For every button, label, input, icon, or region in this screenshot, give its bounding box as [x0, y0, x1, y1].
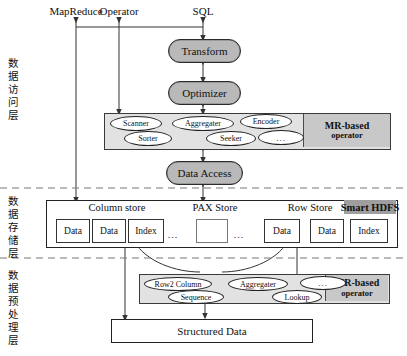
operator-row2column[interactable]: Row2 Column: [144, 277, 212, 291]
diagram-canvas: 数据访问层 数据存储层 数据预处理层 MapReduce Operator SQ…: [0, 0, 407, 356]
layer-label-preprocess: 数据预处理层: [6, 270, 17, 348]
operator-sorter[interactable]: Sorter: [124, 131, 172, 146]
column-store-more: ...: [166, 230, 180, 240]
operator-sequence[interactable]: Sequence: [168, 290, 224, 304]
layer-label-access: 数据访问层: [6, 58, 17, 123]
mr-tag-sub-pre: operator: [341, 289, 373, 299]
node-transform[interactable]: Transform: [168, 39, 241, 63]
operator-aggregater[interactable]: Aggregater: [172, 116, 234, 131]
storage-section-smart-hdfs: Smart HDFS: [344, 200, 396, 214]
storage-section-column: Column store: [62, 203, 172, 214]
pax-store-more: ...: [232, 230, 246, 240]
layer-label-storage: 数据存储层: [6, 196, 17, 261]
store-item-index-2[interactable]: Index: [350, 219, 388, 243]
storage-section-pax: PAX Store: [175, 203, 255, 214]
node-optimizer[interactable]: Optimizer: [168, 81, 241, 105]
entry-operator: Operator: [86, 6, 152, 17]
operator-more-access[interactable]: ...: [258, 130, 304, 145]
operator-lookup[interactable]: Lookup: [272, 290, 322, 304]
node-data-access[interactable]: Data Access: [166, 161, 243, 185]
operator-encoder[interactable]: Encoder: [240, 114, 292, 129]
entry-sql: SQL: [180, 6, 226, 17]
store-item-data-2[interactable]: Data: [92, 219, 126, 243]
store-item-data-4[interactable]: Data: [310, 219, 344, 243]
store-item-data-3[interactable]: Data: [264, 219, 300, 243]
mr-operator-tag-access: MR-based operator: [303, 114, 390, 147]
store-item-index-1[interactable]: Index: [128, 219, 164, 243]
node-structured-data[interactable]: Structured Data: [111, 319, 313, 343]
operator-scanner[interactable]: Scanner: [110, 116, 162, 131]
store-item-pax-empty[interactable]: [196, 219, 228, 243]
operator-seeker[interactable]: Seeker: [206, 131, 256, 146]
operator-more-preprocess[interactable]: ...: [300, 276, 346, 290]
mr-tag-sub: operator: [331, 131, 363, 141]
store-item-data-1[interactable]: Data: [56, 219, 90, 243]
operator-aggregater-pre[interactable]: Aggregater: [228, 277, 288, 291]
storage-section-row: Row Store: [276, 203, 344, 214]
